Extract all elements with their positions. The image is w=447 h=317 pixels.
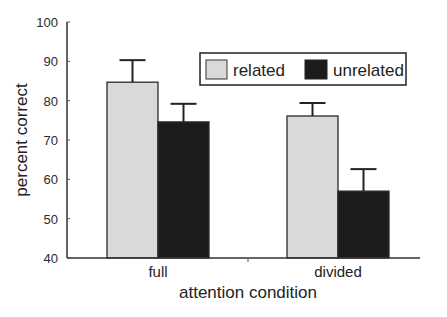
x-category-label: divided [314, 263, 362, 280]
legend: related unrelated [200, 53, 406, 85]
x-axis-title: attention condition [179, 283, 317, 302]
legend-swatch-related [206, 60, 227, 79]
bar-related-full [107, 82, 158, 258]
legend-swatch-unrelated [305, 60, 327, 79]
legend-label-unrelated: unrelated [333, 61, 404, 80]
legend-label-related: related [233, 61, 285, 80]
bar-unrelated-full [158, 122, 209, 258]
y-tick-label: 100 [36, 15, 58, 30]
y-tick-label: 80 [44, 94, 58, 109]
x-category-labels: fulldivided [148, 258, 361, 280]
y-ticks-group: 405060708090100 [36, 15, 70, 266]
bar-chart: 405060708090100 fulldivided percent corr… [0, 0, 447, 317]
bars-group [107, 82, 389, 258]
y-tick-label: 40 [44, 251, 58, 266]
y-axis-title: percent correct [12, 83, 31, 197]
y-tick-label: 50 [44, 212, 58, 227]
y-tick-label: 60 [44, 172, 58, 187]
y-tick-label: 90 [44, 54, 58, 69]
bar-unrelated-divided [338, 191, 389, 258]
y-tick-label: 70 [44, 133, 58, 148]
x-category-label: full [148, 263, 167, 280]
bar-related-divided [287, 116, 338, 258]
